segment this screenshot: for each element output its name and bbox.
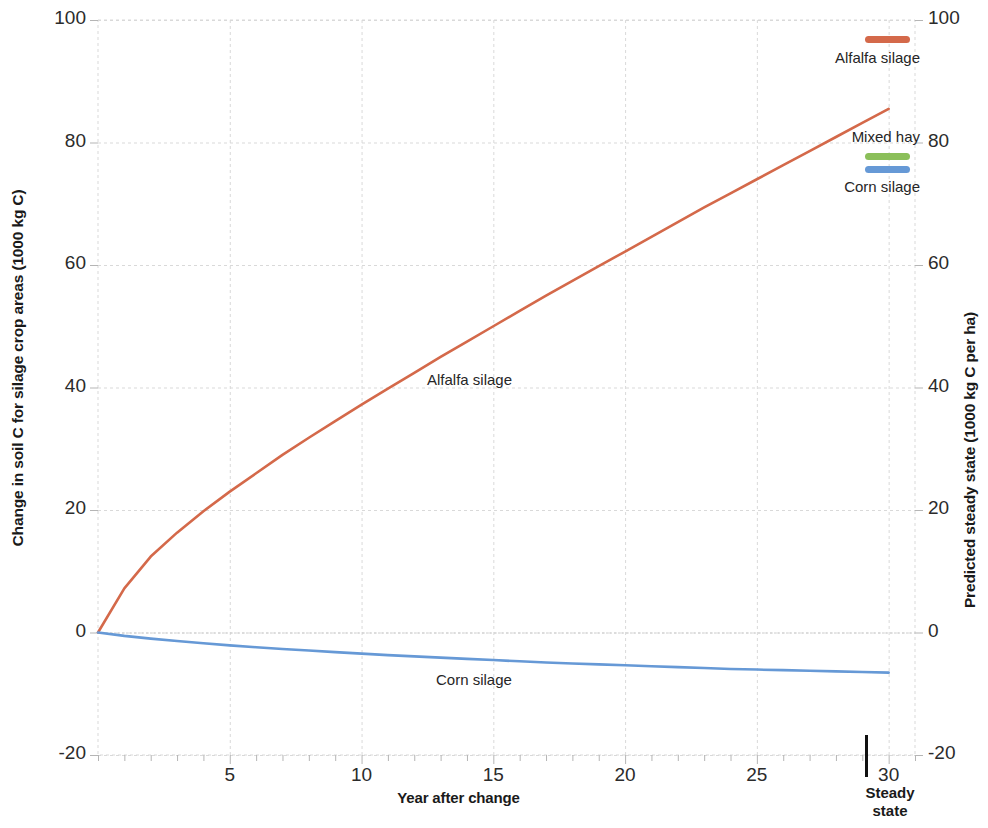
steady-state-tick-marker	[865, 735, 868, 777]
y-axis-tick-label-right: 40	[928, 375, 988, 397]
y-axis-title-right: Predicted steady state (1000 kg C per ha…	[952, 150, 988, 770]
legend-label-alfalfa-silage: Alfalfa silage	[700, 49, 920, 66]
x-axis-tick-label: 20	[590, 764, 660, 786]
y-axis-tick-label-left: 40	[8, 375, 86, 397]
y-axis-tick-label-left: 100	[8, 7, 86, 29]
legend-swatch-alfalfa-silage	[865, 36, 910, 43]
y-axis-title-right-text: Predicted steady state (1000 kg C per ha…	[961, 312, 979, 608]
x-axis-tick-label: 15	[458, 764, 528, 786]
y-axis-tick-label-right: 0	[928, 620, 988, 642]
legend-item-mixed-hay: Mixed hay	[700, 128, 920, 150]
steady-state-label-line1: Steady	[836, 784, 944, 802]
legend-label-mixed-hay: Mixed hay	[700, 128, 920, 145]
legend-item-corn-silage: Corn silage	[700, 166, 920, 188]
legend-swatch-corn-silage	[865, 166, 910, 173]
chart-container: Change in soil C for silage crop areas (…	[0, 0, 988, 828]
y-axis-tick-label-right: 20	[928, 497, 988, 519]
legend-label-corn-silage: Corn silage	[700, 178, 920, 195]
y-axis-tick-label-left: 60	[8, 252, 86, 274]
x-axis-tick-label: 5	[195, 764, 265, 786]
y-axis-tick-label-right: 60	[928, 252, 988, 274]
y-axis-tick-label-right: -20	[928, 742, 988, 764]
x-axis-title: Year after change	[0, 789, 917, 806]
steady-state-label-line2: state	[836, 802, 944, 820]
y-axis-tick-label-left: -20	[8, 742, 86, 764]
y-axis-tick-label-left: 80	[8, 130, 86, 152]
plot-area	[0, 0, 988, 828]
y-axis-tick-label-left: 20	[8, 497, 86, 519]
legend-item-alfalfa-silage: Alfalfa silage	[700, 28, 920, 50]
steady-state-label: Steady state	[836, 784, 944, 821]
y-axis-title-left-text: Change in soil C for silage crop areas (…	[9, 190, 27, 547]
y-axis-tick-label-left: 0	[8, 620, 86, 642]
y-axis-tick-label-right: 80	[928, 130, 988, 152]
series-annotation-corn: Corn silage	[436, 671, 512, 688]
x-axis-tick-label: 25	[722, 764, 792, 786]
y-axis-tick-label-right: 100	[928, 7, 988, 29]
x-axis-tick-label: 10	[327, 764, 397, 786]
series-annotation-alfalfa: Alfalfa silage	[427, 371, 512, 388]
legend-swatch-mixed-hay	[865, 153, 910, 160]
